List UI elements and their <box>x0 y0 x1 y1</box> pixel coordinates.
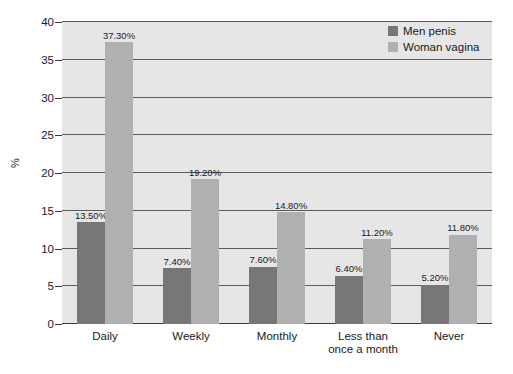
bar-value-label: 14.80% <box>270 201 312 211</box>
y-axis-tick-label: 5 <box>18 280 54 292</box>
bar <box>335 276 363 324</box>
gridline <box>62 21 492 22</box>
bar-value-label: 11.20% <box>356 228 398 238</box>
bar-value-label: 11.80% <box>442 223 484 233</box>
y-axis-tick-mark <box>55 22 62 23</box>
x-axis-tick-label: Daily <box>92 330 118 343</box>
legend-swatch-icon <box>388 26 398 36</box>
y-axis-tick-mark <box>55 249 62 250</box>
y-axis-tick-label: 0 <box>18 318 54 330</box>
bar <box>449 235 477 324</box>
plot-area: 13.50%37.30%7.40%19.20%7.60%14.80%6.40%1… <box>62 22 492 324</box>
bar <box>249 267 277 324</box>
legend-item-label: Men penis <box>403 25 456 37</box>
y-axis-tick-mark <box>55 60 62 61</box>
bar <box>421 285 449 324</box>
y-axis-tick-label: 35 <box>18 54 54 66</box>
y-axis-tick-label: 25 <box>18 129 54 141</box>
bar <box>163 268 191 324</box>
legend-item: Woman vagina <box>388 40 480 54</box>
bar <box>77 222 105 324</box>
x-axis: DailyWeeklyMonthlyLess than once a month… <box>62 330 492 370</box>
bar-chart: % 0510152025303540 13.50%37.30%7.40%19.2… <box>0 0 513 374</box>
x-axis-tick-label: Weekly <box>172 330 210 343</box>
y-axis-tick-label: 40 <box>18 16 54 28</box>
legend-item: Men penis <box>388 24 480 38</box>
bar <box>191 179 219 324</box>
x-axis-tick-label: Never <box>434 330 465 343</box>
x-axis-tick-label: Less than once a month <box>328 330 398 356</box>
legend-swatch-icon <box>388 42 398 52</box>
bar-value-label: 37.30% <box>98 31 140 41</box>
y-axis-tick-mark <box>55 135 62 136</box>
y-axis-tick-mark <box>55 286 62 287</box>
x-axis-tick-label: Monthly <box>257 330 297 343</box>
bar <box>277 212 305 324</box>
y-axis-tick-mark <box>55 211 62 212</box>
legend-item-label: Woman vagina <box>403 41 480 53</box>
y-axis-tick-label: 20 <box>18 167 54 179</box>
bar <box>105 42 133 324</box>
y-axis-tick-mark <box>55 98 62 99</box>
bar <box>363 239 391 324</box>
y-axis-tick-label: 15 <box>18 205 54 217</box>
chart-legend: Men penisWoman vagina <box>388 24 480 54</box>
bar-value-label: 19.20% <box>184 168 226 178</box>
y-axis-tick-label: 30 <box>18 92 54 104</box>
y-axis-tick-mark <box>55 324 62 325</box>
y-axis-tick-label: 10 <box>18 243 54 255</box>
y-axis-tick-mark <box>55 173 62 174</box>
